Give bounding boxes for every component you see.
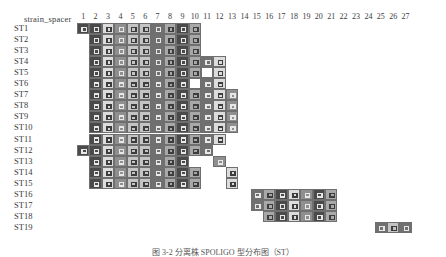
heatmap-cell (176, 100, 188, 111)
cell-marker-ring (131, 171, 137, 176)
cell-marker-core (306, 216, 309, 218)
cell-marker-ring (131, 60, 137, 65)
heatmap-cell (89, 89, 101, 100)
cell-marker-ring (143, 171, 149, 176)
heatmap-cell (213, 134, 225, 145)
heatmap-cell (164, 156, 176, 167)
cell-marker-core (306, 205, 309, 207)
heatmap-cell (102, 178, 114, 189)
cell-marker-ring (218, 93, 224, 98)
cell-marker-ring (168, 38, 174, 43)
cell-marker-ring (391, 226, 397, 231)
cell-marker-ring (193, 182, 199, 187)
heatmap-cell (201, 89, 213, 100)
cell-marker-ring (267, 204, 273, 209)
heatmap-cell (164, 100, 176, 111)
cell-marker-ring (218, 160, 224, 165)
cell-marker-core (108, 61, 111, 63)
cell-marker-ring (329, 193, 335, 198)
row-label-st18: ST18 (14, 211, 32, 221)
cell-marker-core (95, 161, 98, 163)
heatmap-cell (201, 67, 213, 78)
cell-marker-core (95, 128, 98, 130)
cell-marker-core (120, 50, 123, 52)
cell-marker-ring (218, 60, 224, 65)
cell-marker-core (194, 61, 197, 63)
heatmap-cell (114, 23, 126, 34)
cell-marker-ring (119, 182, 125, 187)
cell-marker-ring (255, 204, 261, 209)
cell-marker-core (95, 39, 98, 41)
cell-marker-core (120, 139, 123, 141)
heatmap-cell (288, 200, 300, 211)
cell-marker-core (207, 95, 210, 97)
cell-marker-ring (81, 27, 87, 32)
cell-marker-ring (230, 182, 236, 187)
cell-marker-ring (143, 38, 149, 43)
heatmap-cell (176, 56, 188, 67)
cell-marker-ring (218, 137, 224, 142)
cell-marker-core (170, 50, 173, 52)
heatmap-cell (176, 122, 188, 133)
cell-marker-ring (379, 226, 385, 231)
cell-marker-core (170, 106, 173, 108)
cell-marker-ring (94, 137, 100, 142)
cell-marker-ring (94, 27, 100, 32)
heatmap-cell (151, 34, 163, 45)
cell-marker-core (83, 150, 86, 152)
cell-marker-ring (106, 82, 112, 87)
cell-marker-core (145, 117, 148, 119)
cell-marker-core (170, 183, 173, 185)
heatmap-cell (89, 134, 101, 145)
cell-marker-core (108, 128, 111, 130)
heatmap-cell (176, 156, 188, 167)
cell-marker-ring (193, 60, 199, 65)
cell-marker-core (182, 84, 185, 86)
cell-marker-ring (106, 126, 112, 131)
cell-marker-core (294, 205, 297, 207)
heatmap-cell (176, 145, 188, 156)
heatmap-cell (102, 100, 114, 111)
cell-marker-ring (94, 115, 100, 120)
cell-marker-ring (329, 215, 335, 220)
cell-marker-core (207, 139, 210, 141)
heatmap-cell (114, 56, 126, 67)
heatmap-cell (139, 100, 151, 111)
cell-marker-ring (168, 115, 174, 120)
cell-marker-ring (94, 104, 100, 109)
heatmap-cell (164, 167, 176, 178)
cell-marker-ring (168, 149, 174, 154)
heatmap-cell (325, 189, 337, 200)
cell-marker-core (281, 194, 284, 196)
heatmap-cell (89, 78, 101, 89)
heatmap-cell (77, 23, 89, 34)
cell-marker-core (182, 61, 185, 63)
cell-marker-core (232, 117, 235, 119)
heatmap-cell (151, 122, 163, 133)
cell-marker-ring (119, 137, 125, 142)
cell-marker-core (182, 150, 185, 152)
cell-marker-core (95, 50, 98, 52)
cell-marker-ring (181, 126, 187, 131)
heatmap-cell (139, 111, 151, 122)
cell-marker-core (318, 205, 321, 207)
cell-marker-core (157, 183, 160, 185)
cell-marker-ring (94, 182, 100, 187)
cell-marker-core (108, 95, 111, 97)
cell-marker-core (120, 117, 123, 119)
cell-marker-core (219, 61, 222, 63)
cell-marker-core (95, 28, 98, 30)
cell-marker-ring (119, 27, 125, 32)
row-label-st4: ST4 (14, 56, 28, 66)
cell-marker-ring (119, 60, 125, 65)
cell-marker-ring (156, 149, 162, 154)
heatmap-cell (102, 156, 114, 167)
heatmap-cell (226, 89, 238, 100)
heatmap-cell (127, 56, 139, 67)
row-label-st8: ST8 (14, 100, 28, 110)
heatmap-cell (139, 45, 151, 56)
heatmap-cell (77, 145, 89, 156)
heatmap-cell (176, 89, 188, 100)
cell-marker-core (120, 128, 123, 130)
cell-marker-core (145, 61, 148, 63)
